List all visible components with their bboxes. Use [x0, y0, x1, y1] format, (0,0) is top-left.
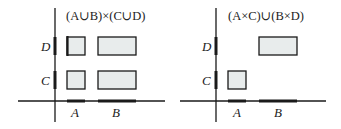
rect-a-x-d [67, 37, 85, 55]
rect-b-x-d [98, 37, 136, 55]
label-d: D [201, 39, 212, 54]
label-a: A [232, 105, 241, 120]
rect-a-x-c [67, 71, 85, 89]
panel-right: (A×C)∪(B×D) D C A B [180, 8, 326, 122]
panel-left: (A∪B)×(C∪D) D C A B [18, 8, 165, 122]
rect-a-x-c [228, 71, 246, 89]
rect-b-x-c [98, 71, 136, 89]
panel-title: (A×C)∪(B×D) [228, 9, 304, 23]
label-a: A [70, 105, 79, 120]
label-b: B [112, 105, 120, 120]
rect-b-x-d [259, 37, 297, 55]
label-b: B [274, 105, 282, 120]
panel-title: (A∪B)×(C∪D) [66, 9, 145, 23]
label-c: C [202, 73, 211, 88]
label-c: C [41, 73, 50, 88]
label-d: D [40, 39, 51, 54]
cartesian-product-diagram: (A∪B)×(C∪D) D C A B (A×C)∪(B×D) D C A B [0, 0, 341, 129]
